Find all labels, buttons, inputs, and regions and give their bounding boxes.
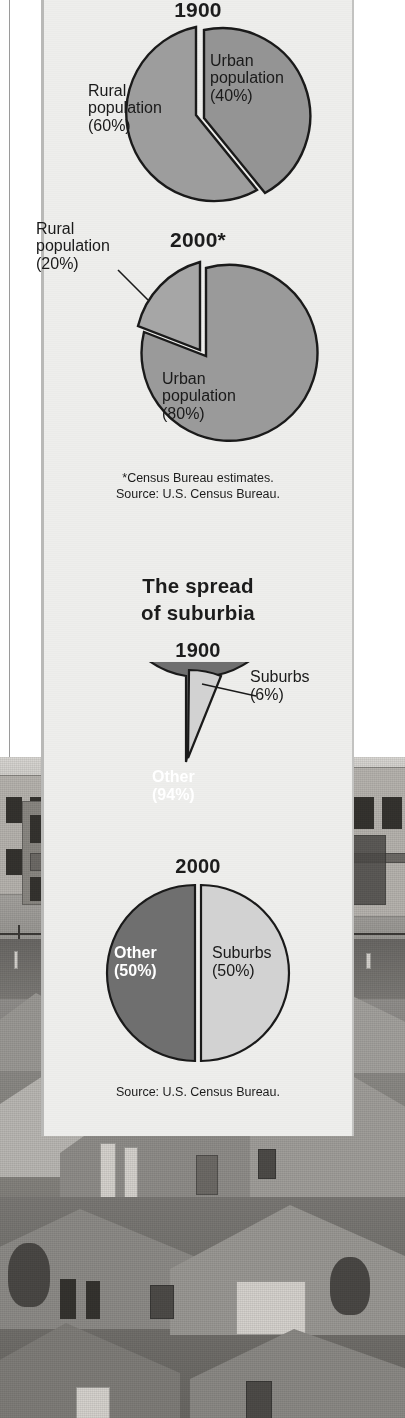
pie-label-suburbs-2000-name: Suburbs [212,944,272,961]
footnote-line-2: Source: U.S. Census Bureau. [44,486,352,502]
pie-slice-suburbs-1900 [188,670,221,758]
pie-label-urban-2000: Urban population (80%) [162,370,236,422]
pie-label-suburbs-1900: Suburbs (6%) [250,668,310,704]
infographic-panel: 1900 Rural population (60%) Urban popula… [41,0,354,1136]
footnote-line-1: *Census Bureau estimates. [44,470,352,486]
pie-label-suburbs-2000-pct: (50%) [212,962,255,979]
chart-title-1900-population: 1900 [44,0,352,22]
chart-title-2000-suburbia: 2000 [44,855,352,878]
pie-label-suburbs-2000: Suburbs (50%) [212,944,272,981]
leader-line-rural-2000 [118,270,148,300]
footnote-suburbia-source: Source: U.S. Census Bureau. [44,1084,352,1100]
pie-chart-2000-suburbia: Other (50%) Suburbs (50%) [44,878,357,1068]
pie-label-other-2000-pct: (50%) [114,962,157,979]
section-heading-suburbia: The spread of suburbia [44,572,352,626]
footnote-census-estimates: *Census Bureau estimates. Source: U.S. C… [44,470,352,502]
pie-chart-2000-population: Rural population (20%) Urban population … [44,248,357,458]
pie-label-other-1900-pct: (94%) [152,786,195,803]
pie-label-rural-2000: Rural population (20%) [36,220,110,272]
section-heading-line-1: The spread [44,572,352,599]
page-rule-line [9,0,10,757]
section-heading-line-2: of suburbia [44,599,352,626]
pie-label-suburbs-1900-name: Suburbs [250,668,310,685]
pie-label-other-1900: Other (94%) [152,768,195,805]
chart-title-1900-suburbia: 1900 [44,639,352,662]
pie-label-urban-1900: Urban population (40%) [210,52,284,104]
pie-label-suburbs-1900-pct: (6%) [250,686,284,703]
pie-label-other-1900-name: Other [152,768,195,785]
infographic-stage: 1900 Rural population (60%) Urban popula… [0,0,405,1418]
pie-label-other-2000: Other (50%) [114,944,157,981]
pie-chart-1900-population: Rural population (60%) Urban population … [44,24,357,206]
pie-chart-1900-suburbia: Suburbs (6%) Other (94%) [44,662,357,848]
pie-label-other-2000-name: Other [114,944,157,961]
pie-label-rural-1900: Rural population (60%) [88,82,162,134]
